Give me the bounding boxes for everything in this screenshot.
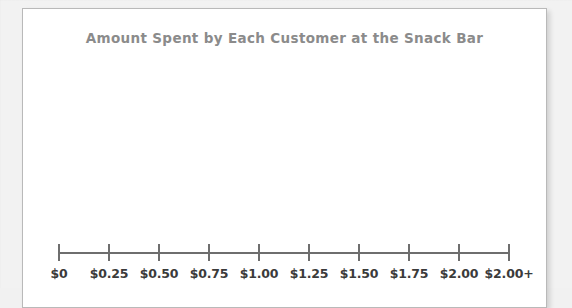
axis-tick-label: $1.75	[390, 266, 429, 281]
axis-tick-label: $1.00	[240, 266, 279, 281]
axis-tick-label: $0.75	[190, 266, 229, 281]
axis-tick-label: $0.25	[90, 266, 129, 281]
axis-tick	[258, 244, 260, 261]
number-line-axis: $0 $0.25 $0.50 $0.75 $1.00 $1.25 $1.50 $…	[59, 244, 509, 290]
axis-tick-label: $0.50	[140, 266, 179, 281]
axis-tick	[358, 244, 360, 261]
axis-tick-label: $0	[51, 266, 68, 281]
axis-line	[59, 252, 509, 254]
worksheet-card: Amount Spent by Each Customer at the Sna…	[22, 8, 547, 308]
axis-tick	[508, 244, 510, 261]
axis-tick	[458, 244, 460, 261]
axis-tick	[108, 244, 110, 261]
chart-title: Amount Spent by Each Customer at the Sna…	[23, 30, 546, 46]
axis-tick-label: $1.25	[290, 266, 329, 281]
axis-tick-label: $2.00	[440, 266, 479, 281]
axis-tick-label: $2.00+	[485, 266, 534, 281]
axis-tick	[408, 244, 410, 261]
axis-tick-label: $1.50	[340, 266, 379, 281]
axis-tick	[308, 244, 310, 261]
plot-area[interactable]	[59, 59, 509, 239]
axis-tick	[158, 244, 160, 261]
axis-tick	[58, 244, 60, 261]
axis-tick	[208, 244, 210, 261]
